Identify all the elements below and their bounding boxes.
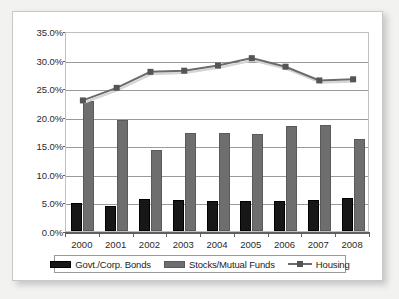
x-axis-tick-label: 2001 <box>105 239 126 250</box>
x-axis-tick-mark <box>234 232 235 237</box>
x-axis-tick-label: 2008 <box>342 239 363 250</box>
x-axis-tick-label: 2003 <box>173 239 194 250</box>
y-axis-tick-label: 35.0% <box>17 27 63 38</box>
x-axis-tick-label: 2000 <box>71 239 92 250</box>
housing-line-series <box>66 33 370 233</box>
legend-item-housing[interactable]: Housing <box>288 259 350 270</box>
x-axis-tick-mark <box>65 232 66 237</box>
x-axis-tick-label: 2005 <box>240 239 261 250</box>
x-axis-tick-mark <box>268 232 269 237</box>
line-marker-swatch-icon <box>288 260 312 268</box>
y-axis-tick-label: 0.0% <box>17 227 63 238</box>
housing-marker-2007 <box>316 77 322 83</box>
chart-card: 0.0%5.0%10.0%15.0%20.0%25.0%30.0%35.0% 2… <box>12 11 383 281</box>
x-axis-tick-mark <box>166 232 167 237</box>
y-axis-tick-label: 15.0% <box>17 141 63 152</box>
legend-item-bonds[interactable]: Govt./Corp. Bonds <box>50 259 151 270</box>
x-axis-tick-mark <box>301 232 302 237</box>
y-axis: 0.0%5.0%10.0%15.0%20.0%25.0%30.0%35.0% <box>13 32 63 232</box>
housing-marker-2002 <box>147 69 153 75</box>
housing-marker-2004 <box>215 63 221 69</box>
x-axis-tick-mark <box>133 232 134 237</box>
legend-label-housing: Housing <box>316 259 350 270</box>
plot-area <box>65 32 369 232</box>
x-axis-tick-mark <box>200 232 201 237</box>
y-axis-tick-label: 10.0% <box>17 169 63 180</box>
y-axis-tick-label: 25.0% <box>17 84 63 95</box>
y-axis-tick-label: 20.0% <box>17 112 63 123</box>
chart-legend: Govt./Corp. Bonds Stocks/Mutual Funds Ho… <box>54 255 346 273</box>
housing-marker-2008 <box>350 76 356 82</box>
housing-marker-2001 <box>114 85 120 91</box>
bar-black-swatch-icon <box>50 261 71 268</box>
housing-marker-2003 <box>181 68 187 74</box>
legend-label-bonds: Govt./Corp. Bonds <box>75 259 151 270</box>
legend-item-stocks[interactable]: Stocks/Mutual Funds <box>164 259 275 270</box>
legend-label-stocks: Stocks/Mutual Funds <box>189 259 275 270</box>
x-axis-tick-label: 2007 <box>308 239 329 250</box>
bar-gray-swatch-icon <box>164 261 185 268</box>
housing-marker-2005 <box>249 55 255 61</box>
housing-marker-2006 <box>283 64 289 70</box>
x-axis-tick-mark <box>99 232 100 237</box>
x-axis-tick-mark <box>369 232 370 237</box>
x-axis-tick-label: 2004 <box>206 239 227 250</box>
x-axis-tick-label: 2002 <box>139 239 160 250</box>
x-axis-tick-mark <box>335 232 336 237</box>
y-axis-tick-label: 5.0% <box>17 198 63 209</box>
y-axis-tick-label: 30.0% <box>17 55 63 66</box>
x-axis-tick-label: 2006 <box>274 239 295 250</box>
housing-marker-2000 <box>80 97 86 103</box>
chart-figure: 0.0%5.0%10.0%15.0%20.0%25.0%30.0%35.0% 2… <box>0 0 399 299</box>
